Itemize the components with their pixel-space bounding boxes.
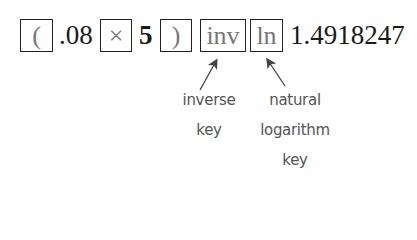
label-line: natural bbox=[250, 85, 340, 115]
inverse-key-label: inverse key bbox=[178, 85, 240, 145]
label-line: logarithm bbox=[250, 115, 340, 145]
label-line: key bbox=[250, 145, 340, 175]
label-line: key bbox=[178, 115, 240, 145]
natural-log-key-label: natural logarithm key bbox=[250, 85, 340, 175]
label-line: inverse bbox=[178, 85, 240, 115]
ln-arrow-icon bbox=[269, 62, 285, 86]
